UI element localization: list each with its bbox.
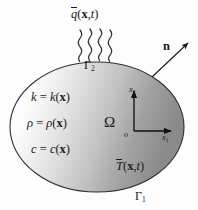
gamma2-symbol: Γ	[84, 58, 91, 72]
flux-arrow-3	[98, 29, 101, 61]
specific-heat-equals: =	[40, 142, 47, 156]
heat-conduction-diagram: q(x,t) n Γ2 Γ1 k = k(x) ρ = ρ(x) c = c(x…	[0, 0, 198, 210]
conductivity-equals: =	[40, 90, 47, 104]
axis-x2-label: x2	[129, 85, 135, 95]
gamma1-subscript: 1	[142, 195, 146, 204]
equation-conductivity: k = k(x)	[31, 91, 70, 104]
flux-arrow-2	[88, 29, 91, 61]
gamma1-symbol: Γ	[135, 189, 142, 203]
flux-label: q(x,t)	[71, 8, 98, 21]
equation-specific-heat: c = c(x)	[31, 143, 70, 156]
normal-vector-label: n	[163, 40, 170, 53]
flux-symbol: q	[71, 8, 77, 21]
density-paren-close: )	[63, 116, 67, 130]
axis-x1-label: x1	[162, 133, 168, 143]
axis-x1-subscript: 1	[166, 137, 169, 143]
axis-origin-label: o	[124, 131, 128, 139]
flux-arrow-4	[108, 30, 111, 61]
domain-symbol-label: Ω	[104, 115, 115, 130]
flux-arrow-1	[78, 30, 81, 61]
temperature-symbol: T	[116, 160, 123, 173]
normal-vector-arrow	[152, 43, 188, 77]
gamma2-subscript: 2	[91, 64, 95, 73]
conductivity-paren-close: )	[66, 90, 70, 104]
diagram-canvas	[0, 0, 198, 210]
axis-x2-subscript: 2	[133, 89, 136, 95]
flux-paren-close: )	[94, 7, 98, 21]
flux-arrow-group	[78, 29, 111, 61]
equation-density: ρ = ρ(x)	[27, 117, 67, 130]
prescribed-temperature-label: T(x,t)	[116, 160, 144, 173]
specific-heat-paren-close: )	[66, 142, 70, 156]
temperature-paren-close: )	[140, 159, 144, 173]
gamma1-label: Γ1	[135, 190, 146, 204]
gamma2-label: Γ2	[84, 59, 95, 73]
